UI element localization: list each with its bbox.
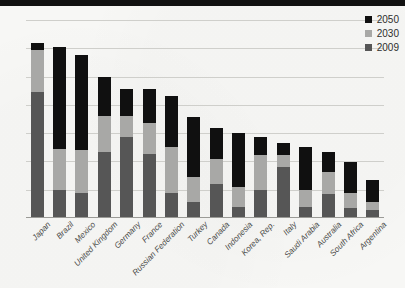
bar-segment-2030 [277,155,290,167]
bar-group[interactable] [98,77,111,218]
bar-segment-2009 [120,137,133,218]
bar-segment-2050 [165,96,178,147]
bar-segment-2050 [322,152,335,172]
x-axis-tick-label: Italy [282,220,299,237]
x-axis-labels: JapanBrazilMexicoUnited KingdomGermanyFr… [26,220,384,286]
bar-segment-2030 [143,123,156,154]
bar-segment-2009 [31,92,44,218]
legend-item[interactable]: 2030 [365,28,399,39]
bar-segment-2030 [98,116,111,151]
bar-series-container [26,20,384,218]
bar-segment-2050 [254,137,267,155]
bar-group[interactable] [53,47,66,218]
legend-label: 2030 [377,28,399,39]
bar-segment-2050 [98,77,111,117]
bar-segment-2050 [120,89,133,116]
chart-figure: 01234567 JapanBrazilMexicoUnited Kingdom… [0,0,405,288]
legend-label: 2009 [377,42,399,53]
bar-segment-2050 [31,43,44,50]
bar-segment-2030 [254,155,267,190]
bar-segment-2030 [187,177,200,202]
chart-legend: 205020302009 [365,14,399,53]
bar-segment-2030 [75,150,88,192]
bar-segment-2050 [299,147,312,189]
bar-group[interactable] [143,89,156,218]
bar-segment-2030 [299,190,312,207]
bar-group[interactable] [344,162,357,218]
bar-segment-2030 [120,116,133,137]
bar-group[interactable] [187,117,200,218]
bar-segment-2009 [53,190,66,218]
bar-segment-2050 [75,55,88,150]
bar-segment-2009 [210,184,223,219]
bar-segment-2050 [210,128,223,159]
bar-segment-2050 [143,89,156,123]
bar-group[interactable] [322,152,335,218]
legend-item[interactable]: 2050 [365,14,399,25]
bar-group[interactable] [165,96,178,218]
bar-group[interactable] [277,143,290,218]
bar-segment-2009 [98,152,111,218]
x-axis-tick-label: Japan [31,220,53,242]
bar-group[interactable] [366,180,379,218]
bar-group[interactable] [75,55,88,218]
page-edge-strip [0,0,405,6]
legend-swatch-icon [365,44,372,51]
bar-group[interactable] [299,147,312,218]
bar-segment-2050 [232,133,245,187]
bar-segment-2030 [232,187,245,207]
legend-swatch-icon [365,16,372,23]
bar-segment-2050 [187,117,200,177]
bar-segment-2050 [277,143,290,155]
bar-segment-2009 [277,167,290,218]
bar-segment-2030 [366,202,379,209]
legend-swatch-icon [365,30,372,37]
bar-group[interactable] [31,43,44,218]
bar-segment-2030 [322,172,335,194]
bar-segment-2050 [344,162,357,194]
legend-item[interactable]: 2009 [365,42,399,53]
bar-segment-2050 [366,180,379,203]
x-axis-line [26,217,384,218]
bar-segment-2009 [75,193,88,218]
bar-segment-2030 [31,50,44,92]
bar-segment-2030 [53,149,66,190]
bar-segment-2030 [344,193,357,208]
bar-segment-2030 [210,159,223,184]
bar-segment-2009 [143,154,156,218]
bar-group[interactable] [232,133,245,218]
legend-label: 2050 [377,14,399,25]
bar-group[interactable] [254,137,267,218]
bar-segment-2009 [254,190,267,218]
bar-group[interactable] [210,128,223,219]
bar-segment-2030 [165,147,178,192]
bar-segment-2009 [187,202,200,218]
bar-segment-2009 [165,193,178,218]
bar-segment-2009 [322,194,335,218]
plot-area [26,20,384,218]
bar-group[interactable] [120,89,133,218]
bar-segment-2050 [53,47,66,149]
